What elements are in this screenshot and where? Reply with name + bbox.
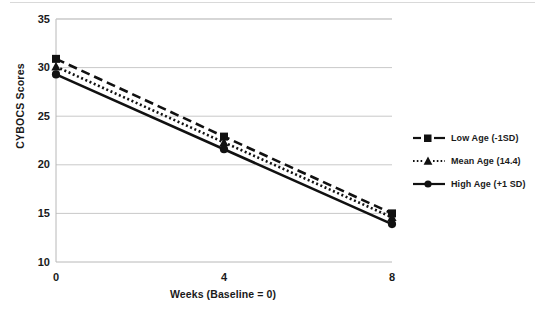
legend-swatch-square-marker [412, 131, 446, 145]
legend-label: High Age (+1 SD) [451, 179, 526, 189]
x-tick-label: 8 [372, 272, 412, 283]
legend-label: Low Age (-1SD) [451, 133, 519, 143]
x-tick-label: 4 [204, 272, 244, 283]
legend-swatch-triangle-marker [412, 154, 446, 168]
chart-legend: Low Age (-1SD) Mean Age (14.4) High Age … [412, 126, 542, 195]
legend-label: Mean Age (14.4) [451, 156, 521, 166]
legend-item-high-age: High Age (+1 SD) [412, 172, 542, 195]
legend-item-low-age: Low Age (-1SD) [412, 126, 542, 149]
chart-figure: CYBOCS Scores 35 30 25 20 15 10 0 4 8 We… [0, 0, 545, 319]
legend-item-mean-age: Mean Age (14.4) [412, 149, 542, 172]
x-axis-title: Weeks (Baseline = 0) [56, 288, 390, 300]
legend-swatch-circle-marker [412, 177, 446, 191]
x-tick-label: 0 [36, 272, 76, 283]
